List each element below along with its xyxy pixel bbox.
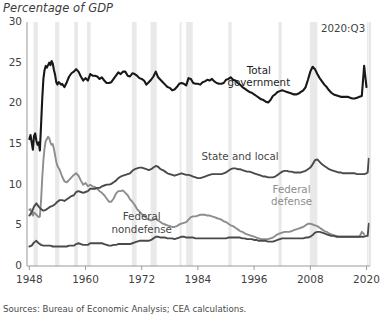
y-tick-label-15: 15 xyxy=(0,137,22,149)
y-tick-label-10: 10 xyxy=(0,178,22,190)
recession-band-2 xyxy=(74,22,78,266)
x-tick-label-1972: 1972 xyxy=(119,273,165,285)
y-tick-label-5: 5 xyxy=(0,218,22,230)
x-tick-label-1960: 1960 xyxy=(63,273,109,285)
recession-band-9 xyxy=(278,22,281,266)
plot-svg xyxy=(0,16,375,278)
x-tick-label-2008: 2008 xyxy=(287,273,333,285)
total-government-label: Totalgovernment xyxy=(199,64,319,89)
plot-area xyxy=(0,16,375,278)
federal-nondefense-label: Federalnondefense xyxy=(82,210,202,235)
chart-axis-title: Percentage of GDP xyxy=(3,1,113,15)
recession-band-10 xyxy=(310,22,317,266)
date-callout: 2020:Q3 xyxy=(283,22,384,34)
federal-defense-label: Federaldefense xyxy=(232,183,352,208)
x-tick-label-1984: 1984 xyxy=(175,273,221,285)
y-tick-label-30: 30 xyxy=(0,15,22,27)
recession-band-8 xyxy=(228,22,231,266)
y-tick-label-25: 25 xyxy=(0,56,22,68)
y-tick-label-0: 0 xyxy=(0,259,22,271)
x-tick-label-2020: 2020 xyxy=(343,273,384,285)
x-tick-label-1948: 1948 xyxy=(6,273,52,285)
state-and-local-label: State and local xyxy=(180,150,300,162)
source-note: Sources: Bureau of Economic Analysis; CE… xyxy=(3,304,246,314)
x-tick-label-1996: 1996 xyxy=(231,273,277,285)
recession-band-1 xyxy=(55,22,59,266)
y-tick-label-20: 20 xyxy=(0,96,22,108)
